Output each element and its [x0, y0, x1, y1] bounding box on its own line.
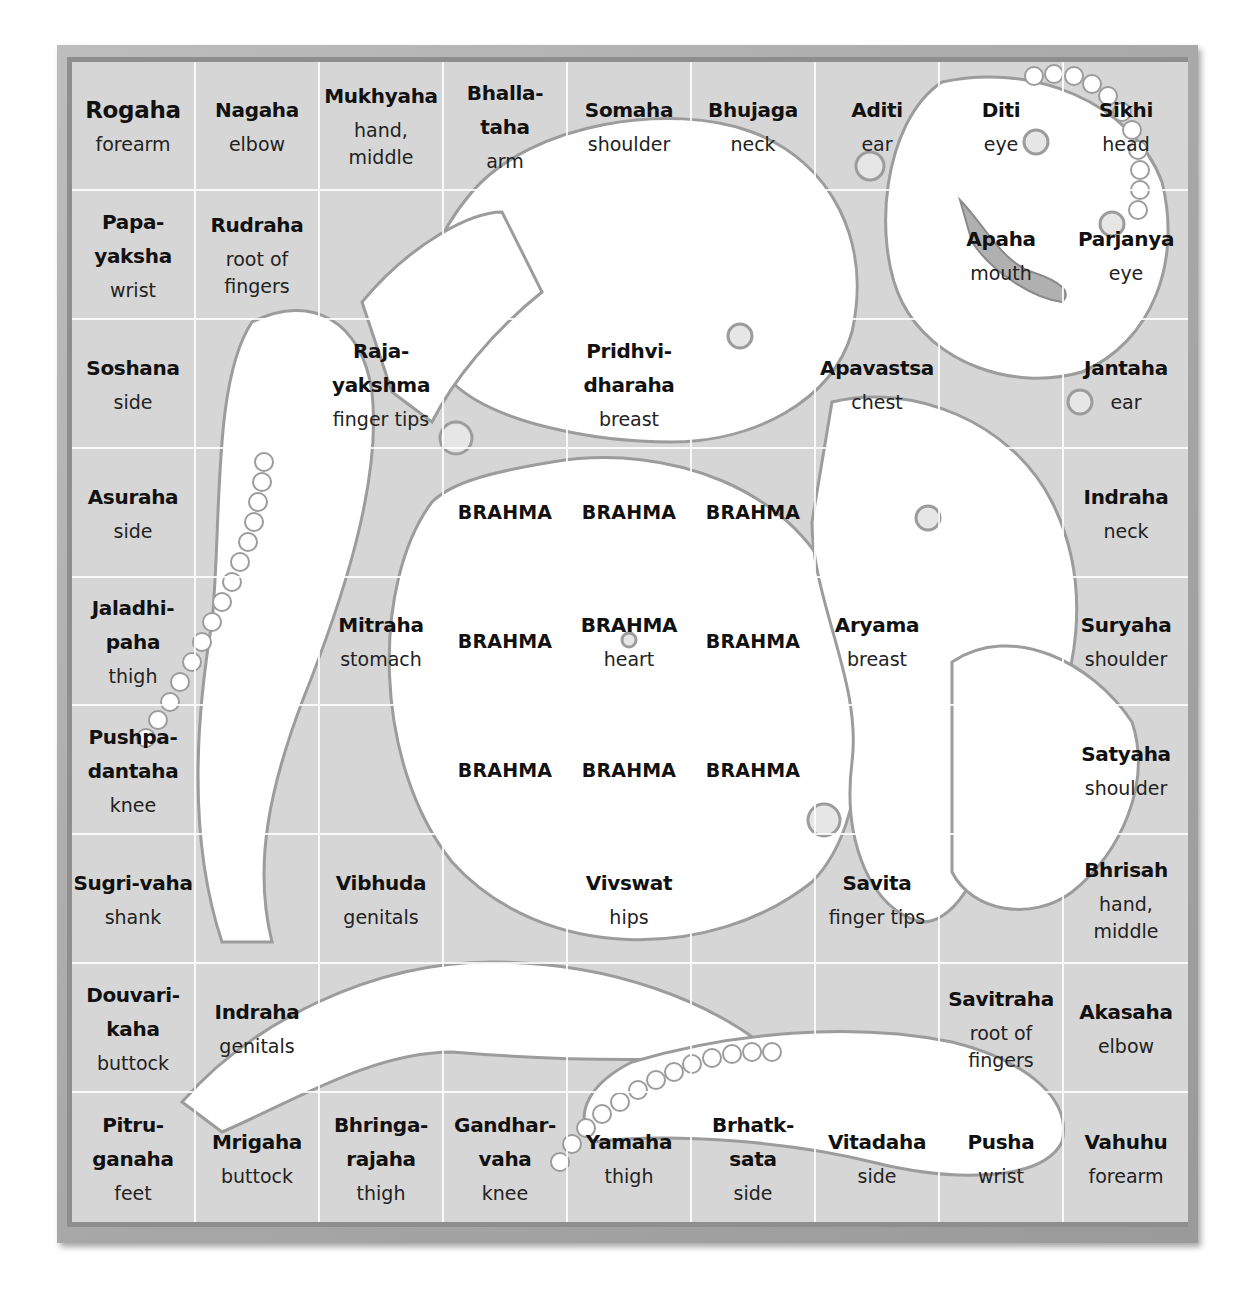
body-part-label: thigh [605, 1163, 654, 1190]
body-part-label: eye [984, 131, 1019, 158]
grid-cell [196, 578, 320, 707]
grid-cell: Somahashoulder [568, 62, 692, 191]
body-part-label: eye [1109, 260, 1144, 287]
grid-cell: Aryamabreast [816, 578, 940, 707]
body-part-label: finger tips [333, 406, 429, 433]
grid-cell: BRAHMA [444, 449, 568, 578]
mandala-board: RogahaforearmNagahaelbowMukhyahahand, mi… [72, 62, 1188, 1222]
body-part-label: hand, middle [320, 117, 442, 171]
deity-name: Mrigaha [212, 1125, 302, 1159]
grid-cell: Nagahaelbow [196, 62, 320, 191]
deity-name: Sikhi [1099, 93, 1153, 127]
deity-name: Pusha [967, 1125, 1034, 1159]
body-part-label: shoulder [1085, 646, 1167, 673]
deity-name: Jaladhi- paha [92, 591, 175, 659]
grid-cell: BRAHMA [568, 706, 692, 835]
body-part-label: stomach [340, 646, 422, 673]
deity-name: Nagaha [215, 93, 299, 127]
deity-name: Somaha [585, 93, 673, 127]
grid-cell [692, 320, 816, 449]
grid-cell [444, 191, 568, 320]
body-part-label: genitals [219, 1033, 294, 1060]
body-part-label: breast [847, 646, 907, 673]
grid-cell [196, 320, 320, 449]
grid-cell: Vahuhuforearm [1064, 1093, 1188, 1222]
grid-cell: BRAHMA [692, 706, 816, 835]
body-part-label: elbow [229, 131, 285, 158]
deity-name: Parjanya [1078, 222, 1174, 256]
grid-cell: Rudraharoot of fingers [196, 191, 320, 320]
grid-cell: Sikhihead [1064, 62, 1188, 191]
grid-cell [444, 964, 568, 1093]
grid-cell: Vibhudagenitals [320, 835, 444, 964]
body-part-label: side [114, 389, 153, 416]
body-part-label: forearm [95, 131, 170, 158]
brahma-label: BRAHMA [706, 759, 801, 781]
body-part-label: thigh [357, 1180, 406, 1207]
grid-cell: Bhrisahhand, middle [1064, 835, 1188, 964]
deity-name: Apaha [966, 222, 1036, 256]
deity-name: Soshana [86, 351, 179, 385]
body-part-label: neck [730, 131, 775, 158]
deity-name: Savitraha [948, 982, 1054, 1016]
grid-cell: Soshanaside [72, 320, 196, 449]
body-part-label: shoulder [1085, 775, 1167, 802]
grid-cell: Raja- yakshmafinger tips [320, 320, 444, 449]
brahma-label: BRAHMA [582, 759, 677, 781]
grid-cell: Apahamouth [940, 191, 1064, 320]
deity-name: Bhrisah [1084, 853, 1168, 887]
grid-cell [692, 191, 816, 320]
grid-cell: Pushawrist [940, 1093, 1064, 1222]
body-part-label: side [858, 1163, 897, 1190]
grid-cell: Brhatk-sataside [692, 1093, 816, 1222]
grid-cell: Aditiear [816, 62, 940, 191]
body-part-label: genitals [343, 904, 418, 931]
deity-name: Sugri-vaha [73, 866, 192, 900]
grid-cell: Vitadahaside [816, 1093, 940, 1222]
body-part-label: shoulder [588, 131, 670, 158]
deity-name: Akasaha [1079, 995, 1172, 1029]
body-part-label: knee [482, 1180, 528, 1207]
deity-name: Douvari- kaha [86, 978, 180, 1046]
grid-cell: Jantahaear [1064, 320, 1188, 449]
grid-cell: Indrahagenitals [196, 964, 320, 1093]
grid-cell [816, 191, 940, 320]
deity-name: BRAHMA [581, 608, 677, 642]
grid-cell [320, 706, 444, 835]
grid-cell [320, 191, 444, 320]
deity-name: Vibhuda [336, 866, 427, 900]
deity-name: Satyaha [1081, 737, 1171, 771]
brahma-label: BRAHMA [458, 501, 553, 523]
body-part-label: thigh [109, 663, 158, 690]
deity-name: Vivswat [586, 866, 672, 900]
grid-cell: Douvari- kahabuttock [72, 964, 196, 1093]
deity-name: Bhalla-taha [444, 76, 566, 144]
grid-cell: Akasahaelbow [1064, 964, 1188, 1093]
grid-cell [692, 835, 816, 964]
grid-cell: Indrahaneck [1064, 449, 1188, 578]
grid-cell [692, 964, 816, 1093]
grid-cell [568, 191, 692, 320]
body-part-label: wrist [110, 277, 156, 304]
body-part-label: hips [609, 904, 648, 931]
grid-cell: Mukhyahahand, middle [320, 62, 444, 191]
grid-cell: Satyahashoulder [1064, 706, 1188, 835]
body-part-label: knee [110, 792, 156, 819]
body-part-label: head [1102, 131, 1149, 158]
body-part-label: neck [1103, 518, 1148, 545]
mandala-grid: RogahaforearmNagahaelbowMukhyahahand, mi… [72, 62, 1188, 1222]
grid-cell [940, 835, 1064, 964]
deity-name: Raja- yakshma [332, 334, 430, 402]
body-part-label: hand, middle [1064, 891, 1188, 945]
deity-name: Brhatk-sata [692, 1108, 814, 1176]
body-part-label: forearm [1088, 1163, 1163, 1190]
grid-cell: Jaladhi- pahathigh [72, 578, 196, 707]
deity-name: Indraha [1084, 480, 1169, 514]
deity-name: Pitru- ganaha [92, 1108, 173, 1176]
grid-cell: Bhujaganeck [692, 62, 816, 191]
body-part-label: mouth [970, 260, 1032, 287]
grid-cell [320, 449, 444, 578]
deity-name: Mitraha [338, 608, 423, 642]
deity-name: Jantaha [1084, 351, 1168, 385]
grid-cell [196, 835, 320, 964]
